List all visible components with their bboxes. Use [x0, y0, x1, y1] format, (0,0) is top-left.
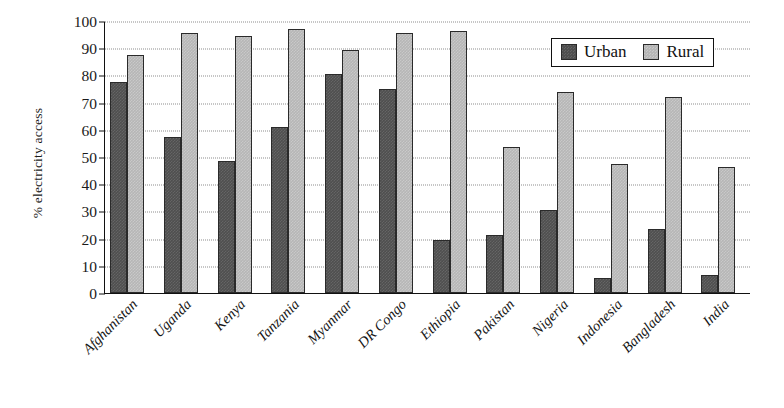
bar-group [159, 22, 213, 293]
bar-rural [557, 92, 574, 293]
bar-group [428, 22, 482, 293]
bar-rural [288, 29, 305, 293]
y-tick-label: 20 [82, 231, 98, 249]
legend-item-rural: Rural [643, 42, 704, 62]
x-tick-label: Indonesia [573, 296, 625, 348]
bar-group [213, 22, 267, 293]
y-tick-label: 40 [82, 176, 98, 194]
bar-group [105, 22, 159, 293]
y-tick-label: 70 [82, 95, 98, 113]
x-tick-label: Tanzania [253, 296, 302, 345]
bar-group [481, 22, 535, 293]
bar-urban [594, 278, 611, 293]
bar-rural [181, 33, 198, 293]
bar-rural [718, 167, 735, 293]
bar-group [320, 22, 374, 293]
y-tick-mark [99, 294, 105, 295]
rural-swatch-icon [643, 44, 659, 60]
y-tick-label: 80 [82, 67, 98, 85]
x-tick-label: DR Congo [355, 296, 411, 352]
y-tick-label: 60 [82, 122, 98, 140]
legend-label-rural: Rural [666, 42, 704, 62]
x-tick-label: Ethiopia [417, 296, 464, 343]
bar-urban [701, 275, 718, 293]
bar-urban [540, 210, 557, 293]
bar-rural [396, 33, 413, 293]
bar-rural [503, 147, 520, 293]
urban-swatch-icon [561, 44, 577, 60]
bar-chart: % electricity access 1009080706050403020… [0, 0, 784, 408]
x-tick-label: Nigeria [528, 296, 571, 339]
bar-urban [218, 161, 235, 293]
y-tick-label: 50 [82, 149, 98, 167]
bar-rural [611, 164, 628, 293]
bar-rural [127, 55, 144, 293]
y-tick-label: 0 [89, 285, 97, 303]
bar-group [266, 22, 320, 293]
bar-urban [271, 127, 288, 293]
bar-urban [379, 89, 396, 293]
legend-item-urban: Urban [561, 42, 626, 62]
y-tick-label: 10 [82, 258, 98, 276]
x-tick-label: Afghanistan [79, 296, 141, 358]
legend-label-urban: Urban [584, 42, 626, 62]
bar-rural [235, 36, 252, 293]
bar-group [374, 22, 428, 293]
y-tick-label: 30 [82, 203, 98, 221]
bar-rural [450, 31, 467, 293]
bar-urban [110, 82, 127, 293]
y-tick-label: 90 [82, 40, 98, 58]
x-tick-label: India [700, 296, 734, 330]
bar-urban [325, 74, 342, 293]
y-tick-label: 100 [74, 13, 97, 31]
y-axis-title: % electricity access [30, 63, 46, 263]
x-tick-label: Bangladesh [619, 296, 679, 356]
bar-rural [342, 50, 359, 293]
x-tick-label: Pakistan [470, 296, 518, 344]
bar-urban [164, 137, 181, 293]
bar-urban [433, 240, 450, 293]
bar-urban [486, 235, 503, 293]
x-axis-labels: AfghanistanUgandaKenyaTanzaniaMyanmarDR … [104, 296, 750, 408]
bar-rural [665, 97, 682, 293]
x-tick-label: Myanmar [304, 296, 356, 348]
chart-legend: Urban Rural [551, 38, 714, 67]
x-tick-label: Uganda [150, 296, 195, 341]
bar-urban [648, 229, 665, 293]
x-tick-label: Kenya [210, 296, 248, 334]
